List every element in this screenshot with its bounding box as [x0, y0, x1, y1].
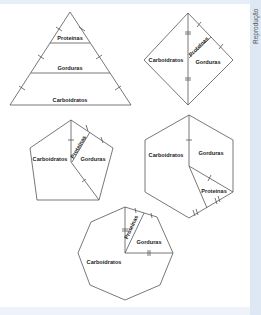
hexagon-label-fats: Gorduras: [198, 150, 223, 156]
hexagon-label-proteins: Proteínas: [201, 188, 227, 194]
triangle-label-fats: Gorduras: [57, 65, 82, 71]
pentagon-label-fats: Gorduras: [80, 156, 105, 162]
triangle-label-carbs: Carboidratos: [53, 97, 88, 103]
hexagon-figure: [145, 115, 233, 218]
hexagon-label-carbs: Carboidratos: [149, 152, 184, 158]
pentagon-label-carbs: Carboidratos: [33, 156, 68, 162]
credit-wrap: Reprodução: [250, 0, 261, 60]
octagon-label-carbs: Carboidratos: [87, 259, 122, 265]
diamond-label-proteins: Proteínas: [187, 35, 209, 57]
diamond-label-fats: Gorduras: [195, 59, 220, 65]
triangle-figure: [10, 12, 131, 105]
octagon-label-fats: Gorduras: [136, 239, 161, 245]
octagon-figure: [78, 207, 173, 300]
diamond-label-carbs: Carboidratos: [149, 57, 184, 63]
credit-label: Reprodução: [252, 9, 259, 44]
triangle-label-proteins: Proteínas: [57, 35, 83, 41]
food-pyramid-figures: Proteínas Gorduras Carboidratos Carboidr…: [0, 0, 250, 315]
